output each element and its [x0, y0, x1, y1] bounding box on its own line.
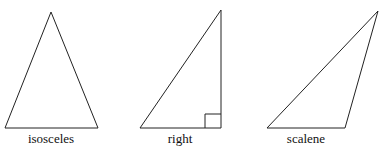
triangles-diagram	[0, 0, 385, 151]
right-label: right	[130, 131, 230, 147]
scalene-triangle	[267, 11, 378, 128]
right-angle-marker	[205, 114, 221, 128]
isosceles-triangle	[5, 12, 98, 128]
right-triangle	[140, 10, 221, 128]
scalene-label: scalene	[256, 131, 356, 147]
isosceles-label: isosceles	[1, 131, 101, 147]
